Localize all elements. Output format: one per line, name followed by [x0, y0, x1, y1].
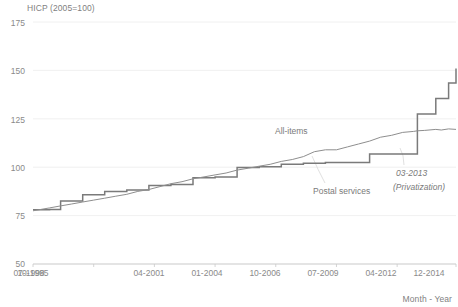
- series-label-all-items: All-items: [275, 126, 308, 136]
- y-tick-150: 150: [3, 66, 25, 76]
- plot-area: [0, 0, 458, 307]
- x-axis-title: Month - Year: [403, 294, 452, 304]
- x-tick-2: 04-2001: [120, 268, 178, 278]
- x-tick-4: 10-2006: [236, 268, 294, 278]
- x-tick-5: 07-2009: [294, 268, 352, 278]
- y-tick-175: 175: [3, 18, 25, 28]
- series-path-all-items: [33, 129, 456, 211]
- y-tick-125: 125: [3, 115, 25, 125]
- y-tick-75: 75: [3, 211, 25, 221]
- x-tick-7: 12-2014: [400, 268, 458, 278]
- x-tick-1: 07-1998: [0, 268, 58, 278]
- y-tick-100: 100: [3, 163, 25, 173]
- hicp-chart: HICP (2005=100) Month - Year 175 150 125…: [0, 0, 458, 307]
- annotation-event: (Privatization): [393, 182, 445, 192]
- x-tick-3: 01-2004: [178, 268, 236, 278]
- chart-title: HICP (2005=100): [27, 3, 95, 13]
- gridlines: [33, 22, 456, 264]
- annotation-date: 03-2013: [396, 168, 427, 178]
- series-label-postal-services: Postal services: [313, 186, 370, 196]
